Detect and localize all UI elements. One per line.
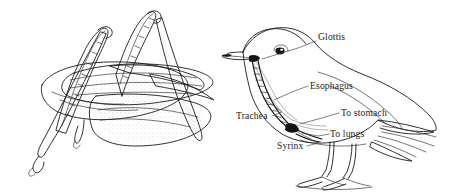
label-esophagus: Esophagus — [310, 80, 353, 91]
label-trachea: Trachea — [236, 110, 268, 121]
bird-foot-back — [322, 178, 346, 190]
beak-gape-line — [226, 56, 251, 58]
label-to-lungs: To lungs — [330, 128, 364, 139]
label-glottis: Glottis — [318, 31, 345, 42]
bird-legs — [296, 142, 372, 190]
grasshopper-foot-left — [33, 156, 44, 173]
anatomy-figure: Glottis Esophagus Trachea To stomach To … — [0, 0, 449, 193]
bird-leg-back — [343, 144, 352, 178]
grasshopper-mid-leg — [75, 120, 84, 143]
bird-eye-highlight — [280, 49, 283, 51]
grasshopper-body-group — [29, 11, 214, 176]
bird-tail-feathers — [370, 120, 436, 161]
grasshopper-illustration: Glottis Esophagus Trachea To stomach To … — [0, 0, 449, 193]
leader-esophagus — [274, 86, 308, 100]
bird-leg-front — [322, 142, 330, 176]
leader-glottis — [262, 41, 316, 59]
leader-to-stomach — [300, 113, 339, 124]
bird-illustration: Glottis Esophagus Trachea To stomach To … — [222, 28, 436, 190]
syrinx-marker — [285, 123, 299, 132]
bird-foot-front — [298, 177, 322, 187]
leader-to-lungs — [302, 133, 329, 136]
label-syrinx: Syrinx — [277, 140, 304, 151]
label-to-stomach: To stomach — [341, 107, 387, 118]
femur-right-serrations — [123, 18, 154, 78]
bird-wing-coverts — [330, 86, 386, 124]
